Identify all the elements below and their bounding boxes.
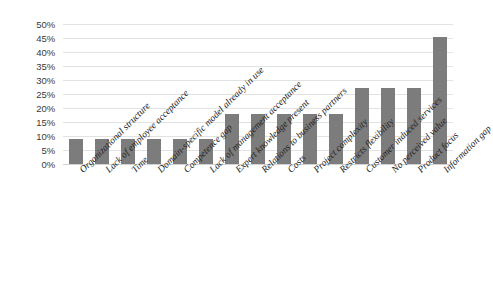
y-tick-label: 40% [36,47,55,58]
y-tick-label: 10% [36,131,55,142]
y-tick-label: 20% [36,103,55,114]
y-tick-label: 35% [36,61,55,72]
x-axis: Organizational structureLack of employee… [63,164,453,284]
y-tick-label: 25% [36,89,55,100]
y-tick-label: 5% [41,145,55,156]
y-tick-label: 15% [36,117,55,128]
y-tick-label: 45% [36,33,55,44]
y-tick-label: 50% [36,19,55,30]
y-axis: 0%5%10%15%20%25%30%35%40%45%50% [0,24,59,164]
bar [69,139,84,164]
y-tick-label: 30% [36,75,55,86]
y-tick-label: 0% [41,159,55,170]
